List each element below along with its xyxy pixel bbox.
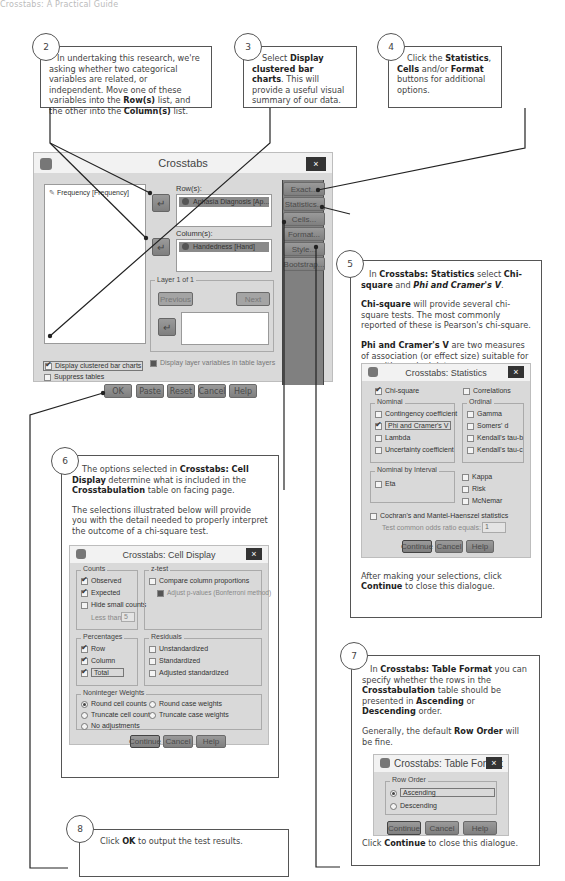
- move-to-layer-button[interactable]: ↵: [158, 318, 176, 336]
- standardized-checkbox[interactable]: Standardized: [149, 657, 200, 665]
- cancel-button[interactable]: Cancel: [425, 821, 459, 835]
- row-order-group: Row Order Ascending Descending: [385, 781, 497, 815]
- round-cell-counts-radio[interactable]: Round cell counts: [81, 700, 147, 708]
- cochrans-checkbox[interactable]: Cochran's and Mantel-Haenszel statistics: [370, 512, 508, 520]
- expected-checkbox[interactable]: Expected: [81, 589, 120, 597]
- no-adjustments-radio[interactable]: No adjustments: [81, 722, 140, 730]
- cancel-button[interactable]: Cancel: [198, 384, 226, 398]
- bootstrap-button[interactable]: Bootstrap...: [283, 257, 325, 271]
- spss-app-icon: [380, 758, 390, 768]
- cancel-button[interactable]: Cancel: [163, 735, 193, 748]
- help-button[interactable]: Help: [466, 540, 494, 553]
- reset-button[interactable]: Reset: [167, 384, 195, 398]
- ok-button[interactable]: OK: [104, 384, 132, 398]
- phi-cramers-v-checkbox[interactable]: Phi and Cramer's V: [375, 422, 451, 430]
- row-percentage-checkbox[interactable]: Row: [81, 645, 105, 653]
- correlations-checkbox[interactable]: Correlations: [463, 387, 511, 395]
- total-percentage-checkbox[interactable]: Total: [81, 669, 124, 677]
- checkbox-unchecked: [149, 646, 156, 653]
- checkbox-unchecked: [375, 447, 382, 454]
- compare-column-proportions-checkbox[interactable]: Compare column proportions: [149, 577, 249, 585]
- checkbox-unchecked: [81, 602, 88, 609]
- ordinal-group: Ordinal Gamma Somers' d Kendall's tau-b …: [462, 403, 524, 463]
- help-button[interactable]: Help: [196, 735, 226, 748]
- adjust-p-values-checkbox[interactable]: Adjust p-values (Bonferroni method): [157, 589, 271, 597]
- close-icon[interactable]: ×: [486, 757, 502, 769]
- close-icon[interactable]: ×: [508, 366, 524, 378]
- radio-selected: [81, 701, 88, 708]
- help-button[interactable]: Help: [229, 384, 257, 398]
- spss-app-icon: [76, 549, 86, 559]
- row-variable-item[interactable]: Aphasia Diagnosis [Ap...: [179, 197, 269, 207]
- radio-unselected: [81, 712, 88, 719]
- display-layer-checkbox[interactable]: Display layer variables in table layers: [150, 359, 275, 367]
- hide-small-counts-checkbox[interactable]: Hide small counts: [81, 601, 146, 609]
- step-number-5: 5: [336, 250, 364, 278]
- truncate-case-weights-radio[interactable]: Truncate case weights: [149, 711, 229, 719]
- spss-app-icon: [368, 367, 378, 377]
- source-variable-list[interactable]: ✎ Frequency [Frequency]: [44, 184, 146, 344]
- crosstabs-titlebar: Crosstabs ×: [34, 153, 332, 173]
- contingency-coefficient-checkbox[interactable]: Contingency coefficient: [375, 410, 457, 418]
- column-variable-item[interactable]: Handedness [Hand]: [179, 242, 269, 252]
- adjusted-standardized-checkbox[interactable]: Adjusted standardized: [149, 669, 228, 677]
- observed-checkbox[interactable]: Observed: [81, 577, 121, 585]
- callout-step-2: In undertaking this research, we're aski…: [40, 46, 212, 108]
- lambda-checkbox[interactable]: Lambda: [375, 434, 410, 442]
- round-case-weights-radio[interactable]: Round case weights: [149, 700, 222, 708]
- somers-d-checkbox[interactable]: Somers' d: [467, 422, 508, 430]
- move-to-rows-button[interactable]: ↵: [152, 194, 170, 212]
- move-to-columns-button[interactable]: ↵: [152, 238, 170, 256]
- arrow-right-icon: ↵: [157, 198, 165, 209]
- columns-list[interactable]: Handedness [Hand]: [176, 239, 272, 272]
- exact-button[interactable]: Exact...: [283, 182, 325, 196]
- close-icon[interactable]: ×: [246, 548, 262, 560]
- step-number-6: 6: [51, 447, 79, 475]
- odds-ratio-input[interactable]: 1: [482, 522, 506, 533]
- descending-radio[interactable]: Descending: [390, 802, 437, 810]
- display-clustered-bar-charts-checkbox[interactable]: Display clustered bar charts: [43, 361, 143, 371]
- checkbox-unchecked: [149, 578, 156, 585]
- risk-checkbox[interactable]: Risk: [462, 485, 486, 493]
- paste-button[interactable]: Paste: [136, 384, 164, 398]
- column-percentage-checkbox[interactable]: Column: [81, 657, 115, 665]
- chi-square-checkbox[interactable]: Chi-square: [375, 387, 419, 395]
- suppress-tables-checkbox[interactable]: Suppress tables: [44, 373, 104, 381]
- continue-button[interactable]: Continue: [387, 821, 421, 835]
- continue-button[interactable]: Continue: [130, 735, 160, 748]
- gamma-checkbox[interactable]: Gamma: [467, 410, 502, 418]
- mcnemar-checkbox[interactable]: McNemar: [462, 497, 502, 505]
- statistics-dialog: Crosstabs: Statistics × Chi-square Corre…: [361, 363, 531, 558]
- step-number-7: 7: [340, 642, 368, 670]
- cells-button[interactable]: Cells...: [283, 212, 325, 226]
- rows-list[interactable]: Aphasia Diagnosis [Ap...: [176, 194, 272, 227]
- radio-unselected: [81, 723, 88, 730]
- step-number-4: 4: [377, 33, 405, 61]
- truncate-cell-counts-radio[interactable]: Truncate cell counts: [81, 711, 153, 719]
- help-button[interactable]: Help: [463, 821, 497, 835]
- checkbox-unchecked: [44, 374, 51, 381]
- crosstabs-dialog: Crosstabs × ✎ Frequency [Frequency] ↵ Ro…: [33, 152, 333, 382]
- callout-step-8: Click OK to output the test results.: [79, 829, 289, 877]
- eta-checkbox[interactable]: Eta: [375, 480, 396, 488]
- uncertainty-coefficient-checkbox[interactable]: Uncertainty coefficient: [375, 446, 454, 454]
- ascending-radio[interactable]: Ascending: [390, 789, 495, 797]
- kendalls-tau-b-checkbox[interactable]: Kendall's tau-b: [467, 434, 523, 442]
- kappa-checkbox[interactable]: Kappa: [462, 473, 492, 481]
- layer-list[interactable]: [181, 312, 269, 345]
- list-item-frequency[interactable]: ✎ Frequency [Frequency]: [45, 185, 145, 201]
- continue-button[interactable]: Continue: [402, 540, 432, 553]
- unstandardized-checkbox[interactable]: Unstandardized: [149, 645, 208, 653]
- next-button[interactable]: Next: [236, 292, 270, 306]
- statistics-button[interactable]: Statistics...: [283, 197, 325, 211]
- checkbox-checked: [375, 388, 382, 395]
- cancel-button[interactable]: Cancel: [435, 540, 463, 553]
- style-button[interactable]: Style...: [283, 242, 325, 256]
- checkbox-unchecked: [149, 658, 156, 665]
- checkbox-unchecked: [149, 670, 156, 677]
- previous-button[interactable]: Previous: [158, 292, 193, 306]
- format-button[interactable]: Format...: [283, 227, 325, 241]
- close-icon[interactable]: ×: [306, 157, 326, 171]
- less-than-input[interactable]: 5: [121, 612, 135, 622]
- kendalls-tau-c-checkbox[interactable]: Kendall's tau-c: [467, 446, 523, 454]
